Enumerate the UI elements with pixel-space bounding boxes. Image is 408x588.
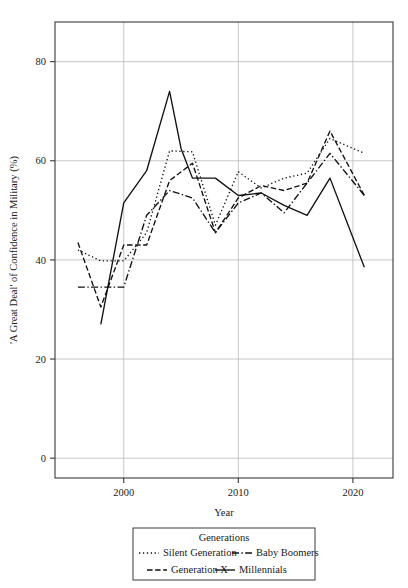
legend-label-baby-boomers: Baby Boomers	[256, 547, 319, 558]
legend-label-silent-generation: Silent Generation	[163, 547, 238, 558]
legend-title: Generations	[199, 532, 250, 543]
chart-background	[0, 0, 408, 588]
legend: GenerationsSilent GenerationBaby Boomers…	[133, 528, 319, 580]
x-tick-label-2020: 2020	[342, 487, 363, 498]
y-tick-label-80: 80	[36, 56, 47, 67]
line-chart: 020406080 200020102020 Year 'A Great Dea…	[0, 0, 408, 588]
y-tick-label-20: 20	[36, 354, 47, 365]
y-tick-label-60: 60	[36, 155, 47, 166]
y-tick-label-0: 0	[41, 453, 46, 464]
x-tick-label-2010: 2010	[228, 487, 249, 498]
x-tick-label-2000: 2000	[113, 487, 134, 498]
x-axis-title: Year	[214, 507, 234, 518]
y-tick-label-40: 40	[36, 255, 47, 266]
legend-label-millennials: Millennials	[239, 564, 287, 575]
y-axis-title: 'A Great Deal' of Confidence in Military…	[8, 156, 20, 344]
figure-container: 020406080 200020102020 Year 'A Great Dea…	[0, 0, 408, 588]
